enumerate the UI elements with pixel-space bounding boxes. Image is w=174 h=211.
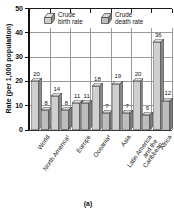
death-rate-bar-3 bbox=[102, 110, 113, 130]
birth-rate-legend-cube-icon bbox=[44, 13, 55, 24]
y-axis-title: Rate (per 1,000 population) bbox=[5, 4, 12, 134]
birth-rate-value-4: 19 bbox=[110, 73, 126, 80]
y-tick-label-50: 50 bbox=[6, 5, 23, 13]
death-rate-value-4: 7 bbox=[119, 103, 135, 110]
birth-rate-value-3: 18 bbox=[89, 76, 105, 83]
death-rate-bar-1 bbox=[61, 107, 72, 130]
y-axis-line bbox=[28, 9, 30, 131]
y-tick-label-10: 10 bbox=[6, 102, 23, 110]
chart-figure: Rate (per 1,000 population) 010203040502… bbox=[0, 0, 174, 211]
death-rate-value-5: 6 bbox=[140, 105, 156, 112]
death-rate-bar-6 bbox=[162, 98, 173, 130]
death-rate-value-1: 8 bbox=[58, 100, 74, 107]
death-rate-bar-5 bbox=[142, 112, 153, 130]
death-rate-bar-2 bbox=[81, 100, 92, 130]
death-rate-bar-4 bbox=[122, 110, 133, 130]
y-tick-label-30: 30 bbox=[6, 53, 23, 61]
y-tick-label-20: 20 bbox=[6, 77, 23, 85]
death-rate-value-6: 12 bbox=[160, 90, 174, 97]
birth-rate-value-6: 36 bbox=[150, 32, 166, 39]
death-rate-legend-cube-icon bbox=[101, 13, 112, 24]
death-rate-legend-label: Crude death rate bbox=[115, 11, 157, 25]
caption: (a) bbox=[68, 200, 108, 207]
y-tick-label-40: 40 bbox=[6, 29, 23, 37]
death-rate-value-0: 8 bbox=[38, 100, 54, 107]
birth-rate-value-0: 20 bbox=[29, 71, 45, 78]
death-rate-value-3: 7 bbox=[99, 103, 115, 110]
birth-rate-value-5: 20 bbox=[130, 71, 146, 78]
death-rate-value-2: 11 bbox=[79, 93, 95, 100]
top-tick-7 bbox=[172, 9, 173, 13]
death-rate-bar-0 bbox=[41, 107, 52, 130]
birth-rate-value-1: 14 bbox=[49, 86, 65, 93]
y-tick-label-0: 0 bbox=[6, 126, 23, 134]
birth-rate-legend-label: Crude birth rate bbox=[58, 11, 100, 25]
